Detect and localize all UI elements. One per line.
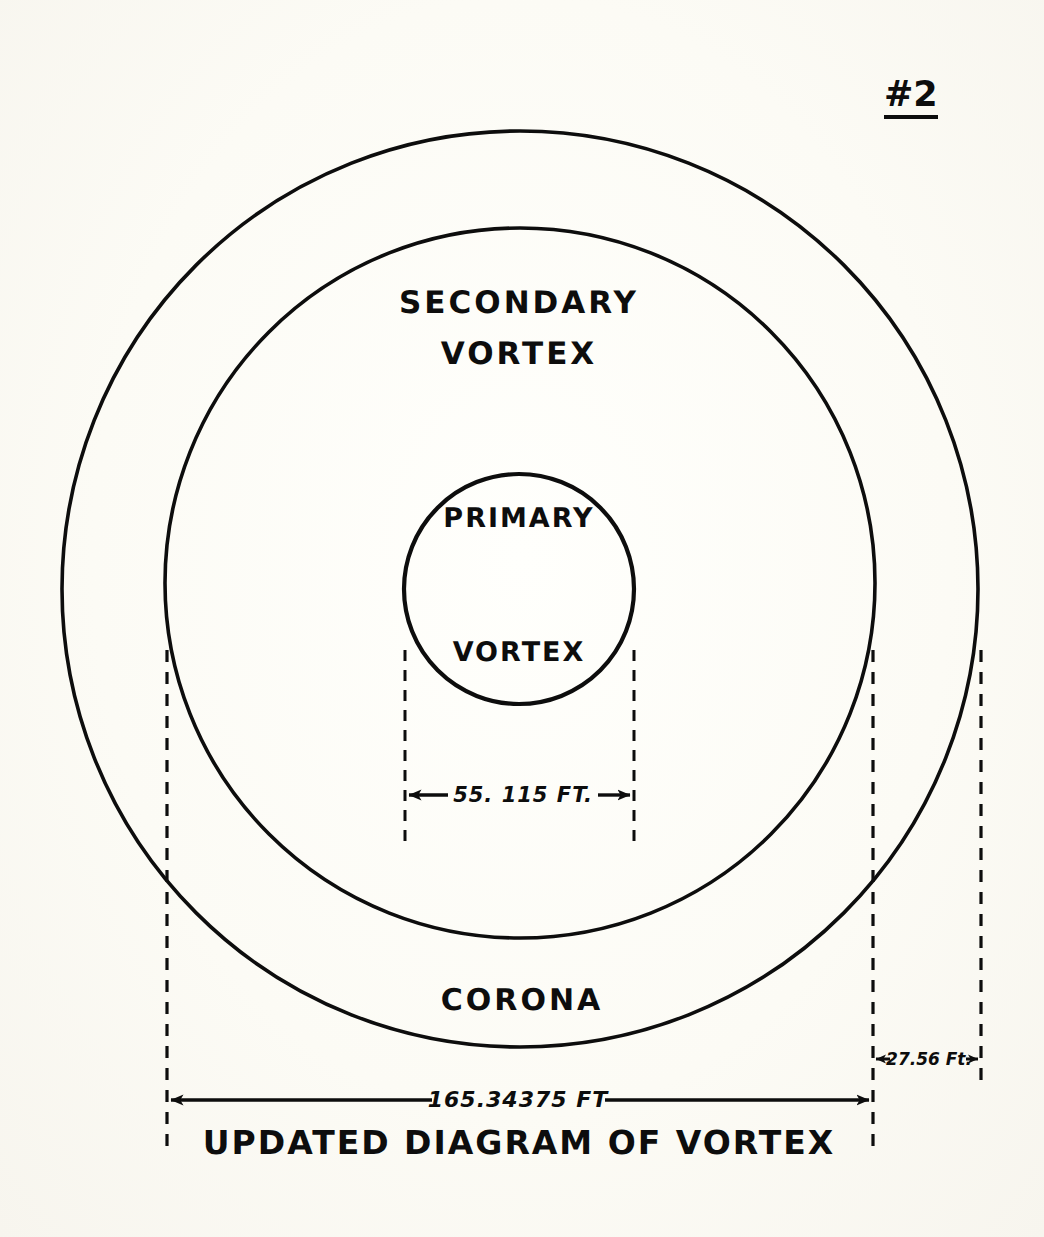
corona-circle [62, 131, 978, 1047]
dimension-label-secondary-diameter: 165.34375 FT [428, 1087, 609, 1112]
secondary-vortex-label-line2: VORTEX [441, 338, 598, 371]
diagram-page: #2 SECONDARY VORTEX PRIMARY VORTEX CORON… [0, 0, 1044, 1237]
dimension-label-corona-width: 27.56 Ft. [886, 1049, 972, 1069]
primary-vortex-label-line1: PRIMARY [443, 505, 594, 533]
corona-label: CORONA [441, 985, 603, 1017]
dimension-label-primary-diameter: 55. 115 FT. [453, 783, 593, 807]
secondary-vortex-circle [165, 228, 875, 938]
primary-vortex-label-line2: VORTEX [453, 639, 586, 667]
sheet-number-label: #2 [884, 74, 938, 119]
diagram-title: UPDATED DIAGRAM OF VORTEX [203, 1126, 835, 1161]
secondary-vortex-label-line1: SECONDARY [399, 287, 639, 320]
